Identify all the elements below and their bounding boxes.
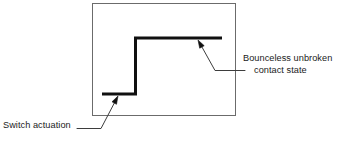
annotation-label-line-2: contact state (243, 65, 332, 77)
annotation-label-switch-actuation: Switch actuation (3, 120, 71, 132)
plot-frame-rect (93, 4, 236, 116)
annotation-label-line-1: Switch actuation (3, 120, 71, 130)
annotation-label-bounceless-contact-state: Bounceless unbroken contact state (243, 53, 332, 76)
switch-bounce-timing-diagram: Bounceless unbroken contact state Switch… (0, 0, 350, 143)
annotation-label-line-1: Bounceless unbroken (243, 53, 332, 63)
